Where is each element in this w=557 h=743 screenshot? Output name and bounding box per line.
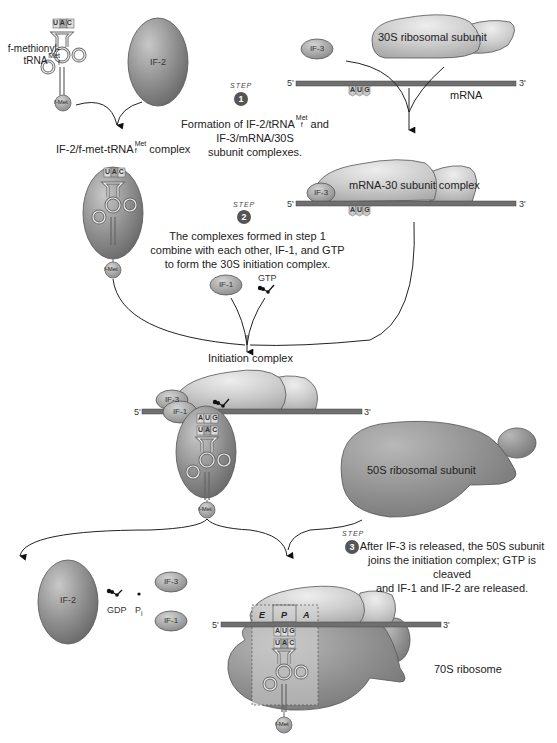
if1-label-mid: IF-1 bbox=[213, 280, 239, 289]
anticodon-a-mid: A bbox=[112, 168, 119, 175]
step2-line3: to form the 30S initiation complex. bbox=[165, 258, 331, 270]
anticodon-c: C bbox=[67, 19, 74, 26]
f-subscript: f bbox=[48, 59, 60, 66]
five-prime-mid: 5' bbox=[287, 199, 294, 209]
three-prime-mid: 3' bbox=[519, 199, 526, 209]
codon-g-init: G bbox=[212, 414, 219, 421]
if1-label-released: IF-1 bbox=[158, 616, 184, 625]
ribosome-70s-label: 70S ribosome bbox=[434, 663, 502, 676]
anticodon-mid: UAC bbox=[105, 168, 126, 175]
gdp-molecule bbox=[107, 589, 122, 597]
gdp-label: GDP bbox=[107, 605, 127, 615]
step1-line2: IF-3/mRNA/30S bbox=[216, 132, 294, 144]
site-p-label: P bbox=[281, 610, 287, 620]
fmet-label-top: f-Met bbox=[54, 99, 68, 105]
ribosome-30s-label: 30S ribosomal subunit bbox=[378, 31, 487, 44]
met-sup-step1: Met bbox=[296, 114, 308, 121]
anticodon-u: U bbox=[53, 19, 60, 26]
if3-label-init: IF-3 bbox=[159, 395, 185, 404]
step1-word: STEP bbox=[230, 82, 252, 89]
site-e-label: E bbox=[259, 610, 265, 620]
codon-a: A bbox=[350, 86, 357, 93]
anticodon-c-init: C bbox=[212, 426, 219, 433]
three-prime-top: 3' bbox=[519, 78, 526, 88]
anticodon-70s: UAC bbox=[275, 639, 296, 646]
step1-line3: subunit complexes. bbox=[208, 146, 302, 158]
pi-label: Pi bbox=[135, 605, 143, 617]
codon-g-mid: G bbox=[364, 206, 371, 213]
anticodon-c-mid: C bbox=[119, 168, 126, 175]
ribosome-70s bbox=[221, 586, 441, 733]
anticodon-u-70s: U bbox=[275, 639, 282, 646]
if2-complex-label: IF-2/f-met-tRNAMetf complex bbox=[56, 143, 190, 157]
mrna-strand bbox=[296, 81, 516, 86]
f-sub-step1: f bbox=[296, 121, 308, 128]
ribosome-50s-label: 50S ribosomal subunit bbox=[367, 464, 476, 477]
five-prime-70s: 5' bbox=[212, 620, 219, 630]
if3-label-top: IF-3 bbox=[304, 44, 330, 53]
anticodon-u-mid: U bbox=[105, 168, 112, 175]
fmet-label-init: f-Met bbox=[198, 506, 212, 512]
codon-a-70s: A bbox=[275, 627, 282, 634]
step2-line2: combine with each other, IF-1, and GTP bbox=[150, 244, 344, 256]
fmet-label-mid: f-Met bbox=[104, 266, 118, 272]
if2-complex-pre: IF-2/f-met-tRNA bbox=[56, 143, 134, 155]
five-prime-top: 5' bbox=[287, 78, 294, 88]
step1-badge: 1 bbox=[234, 92, 248, 106]
step1-description: Formation of IF-2/tRNAMetf and IF-3/mRNA… bbox=[165, 117, 345, 159]
codon-a-init: A bbox=[198, 414, 205, 421]
fmet-label-70s: f-Met bbox=[275, 721, 289, 727]
gtp-molecule bbox=[258, 285, 274, 294]
step3-line3: and IF-1 and IF-2 are released. bbox=[376, 582, 528, 594]
gtp-label: GTP bbox=[258, 273, 277, 283]
step2-description: The complexes formed in step 1 combine w… bbox=[140, 229, 355, 271]
pi-molecule bbox=[137, 592, 140, 595]
if1-label-init: IF-1 bbox=[167, 407, 193, 416]
anticodon-u-init: U bbox=[198, 426, 205, 433]
step3-line2: joins the initiation complex; GTP is cle… bbox=[368, 554, 536, 580]
if2-label: IF-2 bbox=[144, 57, 172, 67]
met-sup-complex: Met bbox=[135, 140, 147, 147]
if2-complex-post: complex bbox=[146, 143, 190, 155]
translation-initiation-diagram: f-methionyl- tRNAMetf IF-2 f-Met IF-3 30… bbox=[0, 0, 557, 743]
met-superscript: Met bbox=[48, 52, 60, 59]
initiation-complex-label: Initiation complex bbox=[208, 352, 293, 365]
mrna-label: mRNA bbox=[450, 89, 482, 102]
step3-description: After IF-3 is released, the 50S subunit … bbox=[352, 539, 552, 595]
five-prime-init: 5' bbox=[134, 407, 141, 417]
step1-line1: Formation of IF-2/tRNA bbox=[181, 118, 295, 130]
step1-line1-post: and bbox=[307, 118, 328, 130]
three-prime-70s: 3' bbox=[443, 620, 450, 630]
codon-g-70s: G bbox=[289, 627, 296, 634]
step2-badge: 2 bbox=[237, 210, 251, 224]
anticodon-a: A bbox=[60, 19, 67, 26]
codon-a-mid: A bbox=[350, 206, 357, 213]
initiation-complex bbox=[142, 370, 362, 518]
step3-line1: After IF-3 is released, the 50S subunit bbox=[360, 540, 545, 552]
fmet-trna-label-line2: tRNA bbox=[23, 55, 47, 66]
step3-word: STEP bbox=[342, 530, 364, 537]
mrna-30-complex-label: mRNA-30 subunit complex bbox=[349, 179, 480, 192]
if3-label-mid: IF-3 bbox=[308, 188, 334, 197]
aug-codon-top: AUG bbox=[350, 86, 372, 93]
codon-g: G bbox=[364, 86, 371, 93]
pi-sub: i bbox=[141, 610, 143, 617]
site-a-label: A bbox=[303, 610, 310, 620]
aug-codon-init: AUG bbox=[198, 414, 220, 421]
step2-line1: The complexes formed in step 1 bbox=[169, 230, 326, 242]
if2-trna-complex bbox=[83, 167, 143, 278]
three-prime-init: 3' bbox=[364, 407, 371, 417]
if2-label-released: IF-2 bbox=[54, 595, 82, 605]
anticodon-c-70s: C bbox=[289, 639, 296, 646]
step2-word: STEP bbox=[233, 201, 255, 208]
if3-label-released: IF-3 bbox=[158, 577, 184, 586]
anticodon-init: UAC bbox=[198, 426, 219, 433]
f-sub-complex: f bbox=[135, 147, 147, 154]
anticodon-top: UAC bbox=[53, 19, 74, 26]
aug-codon-70s: AUG bbox=[275, 627, 297, 634]
fmet-trna-label: f-methionyl- tRNAMetf bbox=[6, 43, 60, 69]
aug-codon-mid: AUG bbox=[350, 206, 372, 213]
